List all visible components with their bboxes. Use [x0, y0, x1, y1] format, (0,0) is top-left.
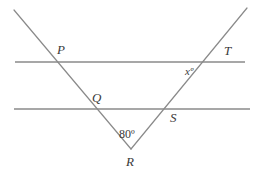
point-label-q: Q: [92, 91, 101, 104]
angle-label-x-degrees: xº: [185, 65, 193, 77]
geometry-canvas: [0, 0, 259, 177]
point-label-p: P: [57, 43, 65, 56]
point-label-t: T: [224, 44, 231, 57]
point-label-s: S: [170, 111, 177, 124]
left-ray-PQR: [14, 10, 131, 149]
point-label-r: R: [126, 155, 134, 168]
right-ray-RST: [131, 8, 247, 149]
angle-label-80-degrees: 80º: [119, 128, 135, 140]
geometry-figure: P Q R S T 80º xº: [0, 0, 259, 177]
